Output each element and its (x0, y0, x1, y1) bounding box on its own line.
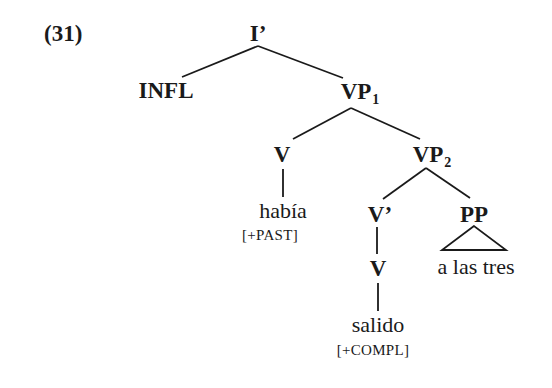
tree-edges (0, 0, 552, 388)
word-salido: salido (352, 314, 405, 336)
node-vp1-subscript: 1 (372, 92, 379, 107)
node-vp1: VP1 (341, 80, 380, 112)
edge-iprime-vp1 (258, 46, 343, 78)
feature-compl: [+COMPL] (337, 342, 410, 358)
node-vp2-label: VP (413, 142, 444, 167)
node-vp2-subscript: 2 (444, 155, 451, 170)
edge-iprime-infl (182, 46, 258, 77)
edge-vp1-v (293, 108, 351, 139)
phrase-a-las-tres: a las tres (438, 256, 515, 278)
node-pp: PP (460, 203, 488, 227)
node-i-bar: I’ (250, 22, 267, 46)
node-v-bar: V’ (368, 203, 392, 227)
node-vp1-label: VP (341, 79, 372, 104)
pp-triangle (442, 226, 506, 250)
node-v-aux: V (274, 143, 291, 167)
node-v-main: V (370, 257, 387, 281)
word-habia: había (259, 200, 307, 222)
edge-vp1-vp2 (351, 108, 420, 139)
node-vp2: VP2 (413, 143, 452, 175)
feature-past: [+PAST] (242, 227, 298, 243)
node-infl: INFL (139, 79, 194, 103)
